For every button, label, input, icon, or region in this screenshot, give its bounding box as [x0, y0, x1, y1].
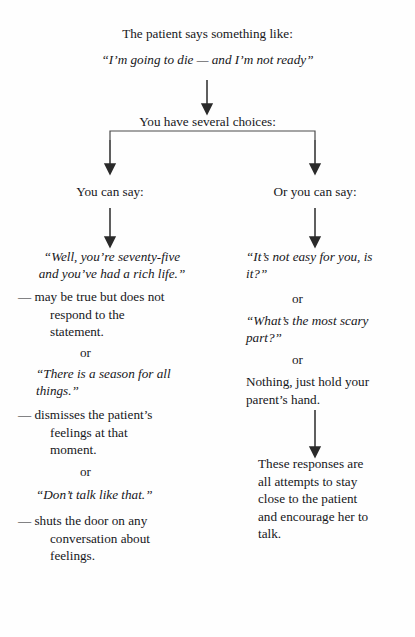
left-connector-or-2: or [80, 464, 91, 480]
quote-line: “What’s the most scary [246, 313, 368, 328]
left-option-1-quote: “Well, you’re seventy-five and you’ve ha… [26, 249, 198, 282]
quote-line: “It’s not easy for you, is [246, 249, 373, 264]
comment-line: statement. [18, 323, 208, 341]
comment-line: feelings. [18, 547, 213, 565]
left-option-2-quote: “There is a season for all things.” [36, 366, 216, 399]
quote-line: part?” [246, 330, 282, 345]
left-branch-heading: You can say: [30, 184, 190, 200]
quote-line: “Don’t talk like that.” [36, 487, 152, 502]
comment-line: feelings at that [18, 424, 208, 442]
right-connector-or-1: or [292, 291, 303, 307]
quote-line: “There is a season for all [36, 366, 171, 381]
quote-line: things.” [36, 383, 79, 398]
comment-line: moment. [18, 441, 208, 459]
right-option-3-text: Nothing, just hold your parent’s hand. [246, 373, 415, 408]
conclusion-line: These responses are [258, 456, 363, 471]
comment-line: — dismisses the patient’s [18, 406, 208, 424]
branch-prompt: You have several choices: [0, 114, 415, 130]
left-option-3-comment: — shuts the door on any conversation abo… [18, 512, 213, 565]
conclusion-line: all attempts to stay [258, 474, 357, 489]
right-option-2-quote: “What’s the most scary part?” [246, 313, 411, 346]
left-connector-or-1: or [80, 345, 91, 361]
right-conclusion: These responses are all attempts to stay… [258, 455, 415, 543]
left-option-1-comment: — may be true but does not respond to th… [18, 288, 208, 341]
conclusion-line: and encourage her to [258, 509, 368, 524]
conclusion-line: close to the patient [258, 491, 357, 506]
comment-line: conversation about [18, 530, 213, 548]
comment-line: — may be true but does not [18, 288, 208, 306]
plain-line: parent’s hand. [246, 392, 320, 407]
left-option-2-comment: — dismisses the patient’s feelings at th… [18, 406, 208, 459]
comment-line: respond to the [18, 306, 208, 324]
page-canvas: The patient says something like: “I’m go… [0, 0, 415, 637]
quote-line: and you’ve had a rich life.” [39, 266, 186, 281]
conclusion-line: talk. [258, 526, 281, 541]
comment-line: — shuts the door on any [18, 512, 213, 530]
quote-line: it?” [246, 266, 267, 281]
flow-title: The patient says something like: [0, 26, 415, 42]
right-connector-or-2: or [292, 352, 303, 368]
plain-line: Nothing, just hold your [246, 374, 369, 389]
left-option-3-quote: “Don’t talk like that.” [36, 487, 221, 504]
right-option-1-quote: “It’s not easy for you, is it?” [246, 249, 411, 282]
right-branch-heading: Or you can say: [235, 184, 395, 200]
patient-quote: “I’m going to die — and I’m not ready” [0, 52, 415, 68]
quote-line: “Well, you’re seventy-five [44, 249, 180, 264]
branch-bus [110, 131, 315, 140]
